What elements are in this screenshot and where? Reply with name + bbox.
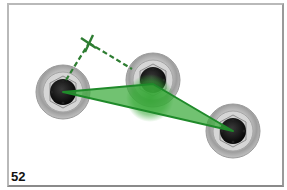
perpendicular-cross-marker — [81, 35, 96, 52]
alignment-triangle — [63, 84, 233, 131]
wheel-alignment-diagram — [0, 0, 287, 190]
figure-number: 52 — [11, 170, 25, 184]
